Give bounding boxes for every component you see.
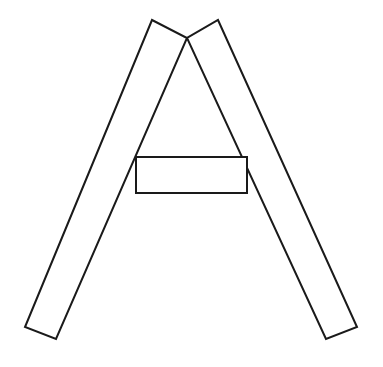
crossbar-rectangle-shape — [136, 157, 247, 193]
letter-a-drawing — [0, 0, 383, 367]
figure-canvas — [0, 0, 383, 367]
